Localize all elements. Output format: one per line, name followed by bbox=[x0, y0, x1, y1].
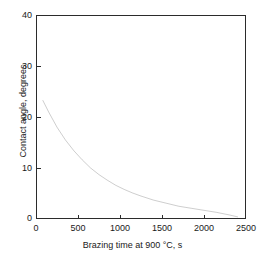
x-tick-500 bbox=[78, 215, 79, 219]
y-tick-30 bbox=[37, 66, 41, 67]
x-tick-label-2500: 2500 bbox=[226, 224, 265, 233]
x-tick-1000 bbox=[120, 215, 121, 219]
x-tick-label-1000: 1000 bbox=[100, 224, 140, 233]
y-tick-20 bbox=[37, 117, 41, 118]
y-axis-title: Contact angle, degrees bbox=[18, 36, 28, 186]
x-tick-label-500: 500 bbox=[58, 224, 98, 233]
x-tick-2000 bbox=[204, 215, 205, 219]
x-tick-1500 bbox=[162, 215, 163, 219]
y-tick-40 bbox=[37, 15, 41, 16]
contact-angle-curve bbox=[43, 100, 238, 217]
x-tick-label-1500: 1500 bbox=[142, 224, 182, 233]
x-axis-title: Brazing time at 900 °C, s bbox=[0, 240, 265, 250]
chart-figure: 40 30 20 10 0 0 500 1000 1500 2000 2500 … bbox=[0, 0, 265, 266]
y-tick-label-40: 40 bbox=[6, 11, 32, 20]
x-tick-label-0: 0 bbox=[16, 224, 56, 233]
y-tick-10 bbox=[37, 168, 41, 169]
y-tick-0 bbox=[37, 218, 41, 219]
x-tick-label-2000: 2000 bbox=[184, 224, 224, 233]
curve-plot bbox=[36, 15, 246, 219]
y-tick-label-0: 0 bbox=[6, 214, 32, 223]
